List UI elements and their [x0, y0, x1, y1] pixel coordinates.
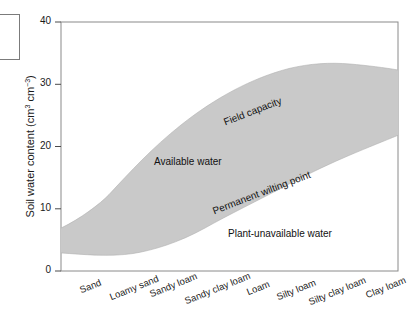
y-tick-label-20: 20: [31, 140, 51, 151]
y-tick-label-40: 40: [31, 15, 51, 26]
annotation-plant-unavailable-water: Plant-unavailable water: [228, 228, 332, 239]
y-tick-label-30: 30: [31, 77, 51, 88]
y-axis-ticks: [55, 22, 61, 271]
y-tick-label-10: 10: [31, 202, 51, 213]
y-tick-label-0: 0: [31, 264, 51, 275]
soil-water-content-figure: Soil water content (cm3 cm−3) 0 10 20 30…: [0, 0, 419, 333]
y-axis-title-sup2: −3: [24, 79, 31, 87]
y-axis-title-sup1: 3: [24, 105, 31, 109]
annotation-available-water: Available water: [154, 156, 222, 167]
y-axis-title-mid: cm: [24, 87, 36, 105]
